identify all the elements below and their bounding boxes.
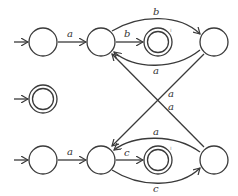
state-q6	[87, 146, 115, 174]
label-q8-q6: a	[153, 126, 159, 137]
label-q1-q3: b	[153, 6, 159, 17]
state-q3	[200, 28, 228, 56]
state-q4-inner	[33, 89, 54, 110]
label-q6-q8: c	[153, 183, 159, 194]
automaton-diagram: a b b a a a a a c c ı ı	[0, 0, 238, 196]
label-q6-q7: c	[124, 147, 130, 158]
label-q1-q2: b	[124, 28, 130, 39]
state-q1	[87, 28, 115, 56]
mark-bottom: ı	[170, 144, 172, 151]
state-q5	[29, 146, 57, 174]
state-q2-inner	[148, 32, 169, 53]
label-q0-q1: a	[67, 28, 73, 39]
mark-top: ı	[170, 26, 172, 33]
state-q8	[200, 146, 228, 174]
label-q3-q1: a	[153, 65, 159, 76]
label-q8-q1: a	[168, 101, 174, 112]
state-q7-inner	[148, 150, 169, 171]
label-q3-q6: a	[168, 88, 174, 99]
state-q0	[29, 28, 57, 56]
label-q5-q6: a	[67, 146, 73, 157]
